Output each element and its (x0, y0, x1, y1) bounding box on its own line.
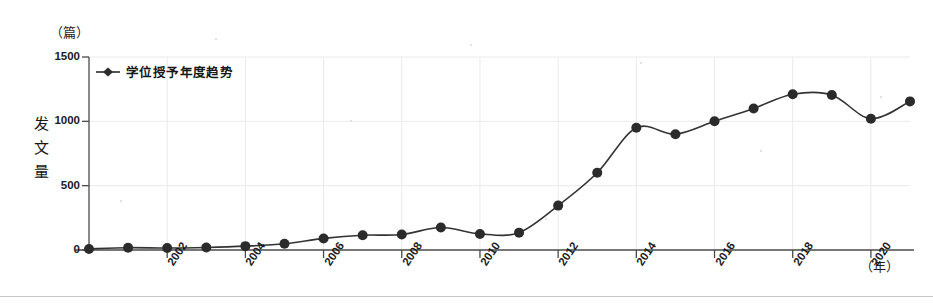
y-axis-title-char-2: 文 (30, 136, 52, 160)
publication-trend-chart: （篇） 发 文 量 （年） 学位授予年度趋势 05001000150020022… (0, 0, 933, 303)
y-tick-label: 0 (34, 243, 80, 255)
y-tick-label: 1500 (34, 50, 80, 62)
legend-marker-icon (96, 66, 120, 78)
y-tick-label: 1000 (34, 114, 80, 126)
scan-speck (640, 62, 642, 64)
scan-speck (880, 96, 882, 98)
scan-speck (760, 150, 762, 152)
scan-speck (545, 218, 547, 220)
legend-label: 学位授予年度趋势 (126, 62, 233, 81)
scan-speck (120, 200, 122, 202)
chart-legend: 学位授予年度趋势 (96, 62, 233, 81)
scan-speck (215, 38, 217, 40)
y-tick-label: 500 (34, 179, 80, 191)
page-bottom-rule (0, 296, 933, 297)
y-axis-unit-label: （篇） (50, 22, 89, 41)
scan-speck (350, 120, 352, 122)
scan-speck (470, 44, 472, 46)
